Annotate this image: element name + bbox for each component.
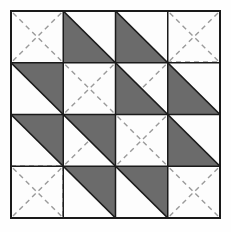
- cell-r4c1-ground: [11, 166, 63, 218]
- cell-r4c3: [116, 166, 168, 218]
- cell-r1c2: [63, 11, 115, 63]
- cell-r3c2: [63, 115, 115, 167]
- cell-r4c4-ground: [168, 166, 220, 218]
- cell-r2c1: [11, 63, 63, 115]
- cell-r3c3: [116, 115, 168, 167]
- cell-r2c3: [116, 63, 168, 115]
- cell-r1c1: [11, 11, 63, 63]
- cell-r4c1: [11, 166, 63, 218]
- cell-r1c3: [116, 11, 168, 63]
- cell-r1c4-ground: [168, 11, 220, 63]
- cell-r3c1: [11, 115, 63, 167]
- cell-r4c4: [168, 166, 220, 218]
- quilt-block-figure: [0, 0, 231, 232]
- cell-r1c4: [168, 11, 220, 63]
- cell-r3c3-ground: [116, 115, 168, 167]
- cell-r1c1-ground: [11, 11, 63, 63]
- cell-r3c4: [168, 115, 220, 167]
- cell-r2c2-ground: [63, 63, 115, 115]
- quilt-block-svg: [0, 0, 231, 232]
- cell-r4c2: [63, 166, 115, 218]
- cell-r2c4: [168, 63, 220, 115]
- cell-r2c2: [63, 63, 115, 115]
